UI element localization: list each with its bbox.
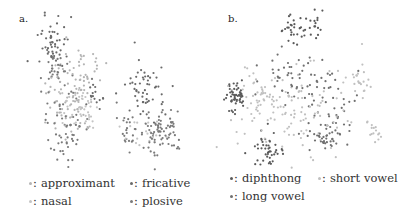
data-point	[235, 102, 237, 104]
data-point	[178, 139, 180, 141]
data-point	[273, 106, 275, 108]
data-point	[337, 132, 339, 134]
data-point	[87, 126, 89, 128]
data-point	[123, 117, 125, 119]
data-point	[275, 149, 277, 151]
legend-label: diphthong	[242, 171, 302, 185]
data-point	[295, 63, 297, 65]
data-point	[50, 55, 52, 57]
data-point	[277, 153, 279, 155]
data-point	[60, 136, 62, 138]
data-point	[146, 98, 148, 100]
data-point	[274, 151, 276, 153]
data-point	[80, 74, 82, 76]
data-point	[273, 100, 275, 102]
data-point	[126, 127, 128, 129]
data-point	[299, 27, 301, 29]
data-point	[260, 147, 262, 149]
data-point	[242, 105, 244, 107]
data-point	[78, 61, 80, 63]
data-point	[160, 120, 162, 122]
legend-label: plosive	[142, 194, 183, 208]
data-point	[54, 127, 56, 129]
data-point	[268, 96, 270, 98]
data-point	[259, 113, 261, 115]
data-point	[322, 142, 324, 144]
data-point	[330, 147, 332, 149]
data-point	[319, 115, 321, 117]
data-point	[261, 129, 263, 131]
data-point	[66, 97, 68, 99]
data-point	[282, 79, 284, 81]
data-point	[57, 15, 59, 17]
data-point	[269, 157, 271, 159]
data-point	[256, 107, 258, 109]
data-point	[50, 148, 52, 150]
data-point	[47, 91, 49, 93]
data-point	[375, 126, 377, 128]
data-point	[55, 133, 57, 135]
data-point	[116, 117, 118, 119]
data-point	[156, 121, 158, 123]
data-point	[87, 100, 89, 102]
data-point	[274, 119, 276, 121]
data-point	[125, 129, 127, 131]
legend-label: long vowel	[242, 189, 305, 203]
data-point	[287, 72, 289, 74]
data-point	[300, 111, 302, 113]
data-point	[246, 67, 248, 69]
data-point	[62, 68, 64, 70]
data-point	[229, 88, 231, 90]
data-point	[62, 153, 64, 155]
data-point	[132, 140, 134, 142]
data-point	[80, 58, 82, 60]
data-point	[99, 99, 101, 101]
data-point	[91, 78, 93, 80]
data-point	[241, 79, 243, 81]
data-point	[163, 130, 165, 132]
data-point	[61, 141, 63, 143]
data-point	[286, 127, 288, 129]
data-point	[61, 65, 63, 67]
data-point	[56, 112, 58, 114]
marker-dot-icon	[230, 195, 233, 198]
data-point	[44, 121, 46, 123]
data-point	[71, 159, 73, 161]
data-point	[363, 81, 365, 83]
data-point	[271, 98, 273, 100]
data-point	[61, 92, 63, 94]
data-point	[147, 79, 149, 81]
data-point	[119, 126, 121, 128]
data-point	[53, 70, 55, 72]
data-point	[148, 141, 150, 143]
data-point	[170, 125, 172, 127]
data-point	[152, 136, 154, 138]
data-point	[293, 26, 295, 28]
data-point	[271, 60, 273, 62]
data-point	[216, 146, 218, 148]
data-point	[125, 138, 127, 140]
data-point	[274, 85, 276, 87]
data-point	[259, 163, 261, 165]
data-point	[291, 77, 293, 79]
data-point	[126, 132, 128, 134]
data-point	[265, 153, 267, 155]
data-point	[174, 134, 176, 136]
data-point	[67, 83, 69, 85]
data-point	[241, 118, 243, 120]
data-point	[74, 109, 76, 111]
data-point	[80, 89, 82, 91]
data-point	[128, 140, 130, 142]
data-point	[72, 95, 74, 97]
data-point	[96, 68, 98, 70]
data-point	[250, 113, 252, 115]
data-point	[301, 70, 303, 72]
data-point	[70, 16, 72, 18]
data-point	[142, 92, 144, 94]
data-point	[66, 141, 68, 143]
data-point	[95, 57, 97, 59]
data-point	[86, 92, 88, 94]
data-point	[256, 159, 258, 161]
data-point	[320, 29, 322, 31]
data-point	[230, 95, 232, 97]
